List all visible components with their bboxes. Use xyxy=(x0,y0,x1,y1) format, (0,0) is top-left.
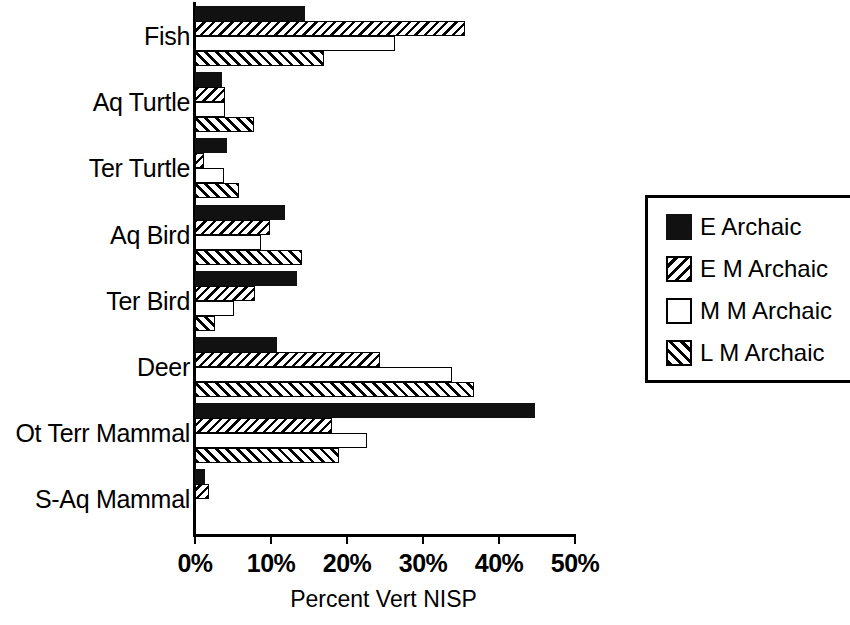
bar xyxy=(195,87,225,102)
x-axis-tick-label: 0% xyxy=(177,549,212,578)
x-axis-tick xyxy=(498,534,500,544)
category-label-deer: Deer xyxy=(137,353,190,382)
category-label-aq-turtle: Aq Turtle xyxy=(93,88,190,117)
bar xyxy=(195,271,297,286)
bar xyxy=(195,21,465,36)
bar xyxy=(195,448,339,463)
legend-swatch-icon xyxy=(666,256,692,282)
bar xyxy=(195,153,204,168)
bar xyxy=(195,36,395,51)
legend-swatch-icon xyxy=(666,298,692,324)
bar xyxy=(195,469,205,484)
x-axis-tick xyxy=(574,534,576,544)
bar xyxy=(195,418,332,433)
bar xyxy=(195,250,302,265)
legend-item-label: E M Archaic xyxy=(700,257,828,281)
bar xyxy=(195,235,261,250)
legend-item-label: M M Archaic xyxy=(700,299,832,323)
x-axis-tick-label: 10% xyxy=(247,549,296,578)
bar xyxy=(195,367,452,382)
legend-item-m-m-archaic: M M Archaic xyxy=(666,294,832,328)
bar xyxy=(195,382,474,397)
bar xyxy=(195,117,254,132)
x-axis-tick-label: 20% xyxy=(323,549,372,578)
bar xyxy=(195,316,215,331)
legend-swatch-icon xyxy=(666,340,692,366)
bar xyxy=(195,72,222,87)
legend-item-e-archaic: E Archaic xyxy=(666,210,801,244)
bar xyxy=(195,301,234,316)
x-axis-line xyxy=(193,534,574,537)
bar xyxy=(195,205,285,220)
x-axis-tick xyxy=(270,534,272,544)
bar xyxy=(195,138,227,153)
bar xyxy=(195,403,535,418)
category-label-ter-bird: Ter Bird xyxy=(106,286,190,315)
legend-swatch-icon xyxy=(666,214,692,240)
bar xyxy=(195,220,270,235)
bar xyxy=(195,286,255,301)
bar xyxy=(195,51,324,66)
bar xyxy=(195,484,209,499)
bar xyxy=(195,183,239,198)
bar xyxy=(195,433,367,448)
x-axis-tick xyxy=(346,534,348,544)
x-axis-title: Percent Vert NISP xyxy=(193,586,574,613)
bar xyxy=(195,352,380,367)
category-label-s-aq-mammal: S-Aq Mammal xyxy=(35,485,190,514)
legend-item-label: L M Archaic xyxy=(700,341,825,365)
bar xyxy=(195,6,305,21)
bar xyxy=(195,337,277,352)
x-axis-tick-label: 50% xyxy=(551,549,600,578)
category-label-ot-terr-mammal: Ot Terr Mammal xyxy=(15,419,190,448)
legend-item-label: E Archaic xyxy=(700,215,801,239)
category-label-ter-turtle: Ter Turtle xyxy=(89,154,190,183)
category-label-aq-bird: Aq Bird xyxy=(110,220,190,249)
x-axis-tick xyxy=(194,534,196,544)
x-axis-tick-label: 30% xyxy=(399,549,448,578)
x-axis-tick-label: 40% xyxy=(475,549,524,578)
legend-item-l-m-archaic: L M Archaic xyxy=(666,336,825,370)
legend-box: E ArchaicE M ArchaicM M ArchaicL M Archa… xyxy=(645,195,850,383)
bar xyxy=(195,102,225,117)
bar xyxy=(195,168,224,183)
category-label-fish: Fish xyxy=(144,22,190,51)
legend-item-e-m-archaic: E M Archaic xyxy=(666,252,828,286)
x-axis-tick xyxy=(422,534,424,544)
